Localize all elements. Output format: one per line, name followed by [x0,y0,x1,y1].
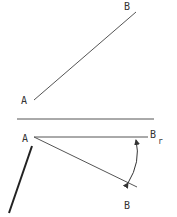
label-a-top: A [21,95,27,106]
label-br-main: B [150,129,156,140]
label-br-sub: r [158,137,163,146]
line-ab-bottom [34,137,137,187]
label-b-top: B [124,1,130,12]
thick-line [9,146,32,213]
label-b-bottom: B [124,200,130,211]
rotation-diagram: A B A B r B [0,0,177,217]
line-ab-top [34,12,136,100]
rotation-arc-icon [128,140,137,183]
label-a-bottom: A [22,133,28,144]
